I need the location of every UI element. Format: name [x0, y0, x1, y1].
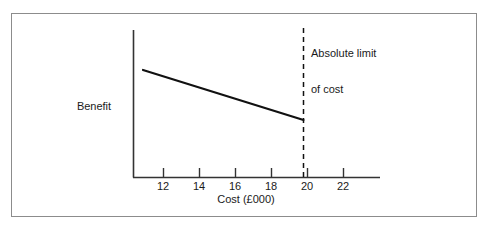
x-axis-label: Cost (£000)	[176, 193, 316, 206]
absolute-limit-annotation: Absolute limit of cost	[311, 23, 376, 119]
x-tick-label-12: 12	[148, 180, 178, 192]
x-tick-label-20: 20	[292, 180, 322, 192]
chart-figure: Benefit 12 14 16 18 20 22 Cost (£000) Ab…	[0, 0, 491, 232]
x-tick-label-14: 14	[184, 180, 214, 192]
x-tick-label-22: 22	[328, 180, 358, 192]
x-tick-label-18: 18	[256, 180, 286, 192]
benefit-data-line	[143, 70, 304, 120]
x-tick-label-16: 16	[220, 180, 250, 192]
y-axis-label: Benefit	[66, 100, 122, 113]
absolute-limit-annotation-line-2: of cost	[311, 83, 376, 95]
absolute-limit-annotation-line-1: Absolute limit	[311, 47, 376, 59]
x-axis-ticks	[164, 168, 344, 177]
